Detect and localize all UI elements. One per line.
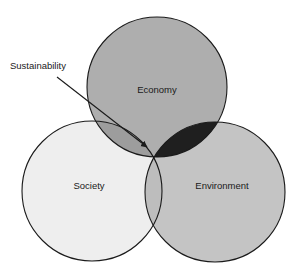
society-label: Society bbox=[73, 180, 104, 191]
venn-diagram-container: Sustainability Economy Society Environme… bbox=[0, 0, 298, 277]
sustainability-label: Sustainability bbox=[10, 60, 66, 71]
economy-label: Economy bbox=[137, 84, 177, 95]
venn-diagram-svg: Sustainability Economy Society Environme… bbox=[0, 0, 298, 277]
environment-label: Environment bbox=[195, 180, 249, 191]
